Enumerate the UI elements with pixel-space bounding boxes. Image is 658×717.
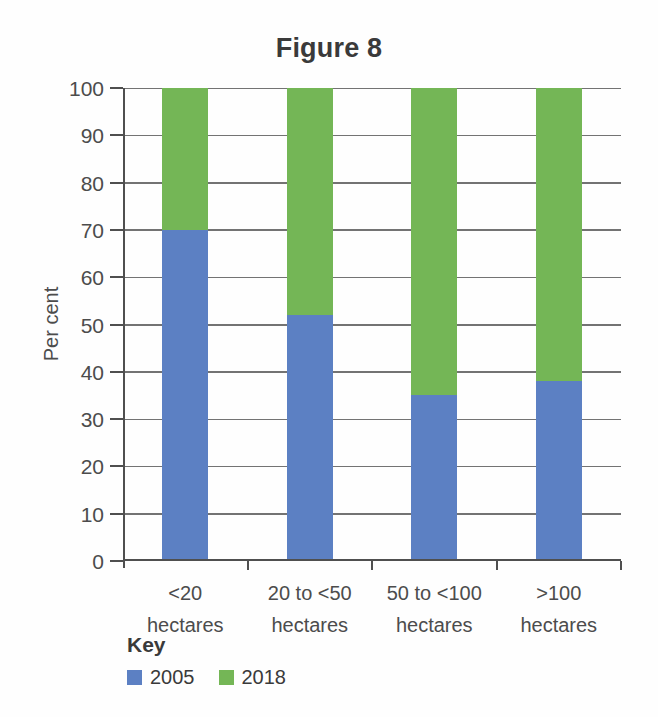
y-axis-tick-labels: 0102030405060708090100	[34, 88, 104, 561]
y-tick-30	[110, 418, 123, 420]
key-heading: Key	[127, 633, 286, 657]
y-tick-label-0: 0	[92, 551, 104, 572]
bar-3-segment-2018	[411, 88, 457, 395]
y-tick-70	[110, 229, 123, 231]
bar-1	[162, 88, 208, 561]
y-tick-60	[110, 276, 123, 278]
y-tick-label-100: 100	[69, 78, 104, 99]
y-tick-label-90: 90	[81, 125, 104, 146]
y-tick-10	[110, 513, 123, 515]
category-label-1-line1: <20	[123, 577, 248, 609]
bar-3-segment-2005	[411, 395, 457, 561]
bar-2	[287, 88, 333, 561]
key-swatch-2005	[127, 670, 142, 685]
y-tick-50	[110, 324, 123, 326]
bar-2-segment-2005	[287, 315, 333, 561]
category-label-1: <20hectares	[123, 577, 248, 641]
x-tick-4	[620, 561, 622, 570]
category-label-3-line2: hectares	[372, 609, 497, 641]
y-tick-label-10: 10	[81, 503, 104, 524]
figure-page: { "title": "Figure 8", "colors": { "seri…	[0, 0, 658, 717]
key-item-2005: 2005	[127, 666, 195, 689]
bar-3	[411, 88, 457, 561]
y-tick-label-60: 60	[81, 267, 104, 288]
category-label-4-line2: hectares	[497, 609, 622, 641]
bar-1-segment-2018	[162, 88, 208, 230]
x-axis-category-labels: <20hectares20 to <50hectares50 to <100he…	[123, 577, 621, 641]
chart-title: Figure 8	[0, 33, 658, 64]
x-tick-3	[496, 561, 498, 570]
category-label-2: 20 to <50hectares	[248, 577, 373, 641]
bar-4-segment-2005	[536, 381, 582, 561]
y-tick-label-20: 20	[81, 456, 104, 477]
key-item-2018: 2018	[219, 666, 287, 689]
key-swatch-2018	[219, 670, 234, 685]
y-tick-label-70: 70	[81, 219, 104, 240]
category-label-3: 50 to <100hectares	[372, 577, 497, 641]
y-tick-0	[110, 560, 123, 562]
y-axis-line	[123, 88, 125, 568]
y-tick-label-80: 80	[81, 172, 104, 193]
bar-2-segment-2018	[287, 88, 333, 315]
category-label-4-line1: >100	[497, 577, 622, 609]
bar-1-segment-2005	[162, 230, 208, 561]
key-label-2018: 2018	[242, 666, 287, 689]
y-tick-label-50: 50	[81, 314, 104, 335]
y-tick-label-30: 30	[81, 409, 104, 430]
plot-area	[123, 88, 621, 561]
key-items: 20052018	[127, 666, 286, 689]
y-tick-90	[110, 134, 123, 136]
y-tick-100	[110, 87, 123, 89]
y-tick-40	[110, 371, 123, 373]
y-tick-20	[110, 465, 123, 467]
chart-key: Key 20052018	[127, 633, 286, 689]
x-tick-1	[247, 561, 249, 570]
bar-4-segment-2018	[536, 88, 582, 381]
y-tick-label-40: 40	[81, 361, 104, 382]
key-label-2005: 2005	[150, 666, 195, 689]
category-label-4: >100hectares	[497, 577, 622, 641]
category-label-3-line1: 50 to <100	[372, 577, 497, 609]
category-label-2-line1: 20 to <50	[248, 577, 373, 609]
y-tick-80	[110, 182, 123, 184]
bar-4	[536, 88, 582, 561]
x-tick-2	[371, 561, 373, 570]
